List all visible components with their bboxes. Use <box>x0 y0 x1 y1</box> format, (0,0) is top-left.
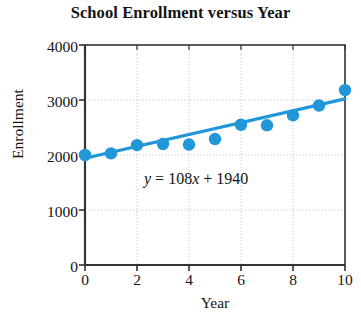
x-tick-label-6: 6 <box>221 272 261 288</box>
x-tick-label-0: 0 <box>65 272 105 288</box>
chart-figure: School Enrollment versus Year Enrollment… <box>0 0 361 323</box>
equation-operator: = 108 <box>151 170 192 187</box>
x-tick-label-2: 2 <box>117 272 157 288</box>
x-tick-label-8: 8 <box>273 272 313 288</box>
x-tick-label-10: 10 <box>325 272 361 288</box>
trendline-equation-annotation: y = 108x + 1940 <box>144 170 248 188</box>
equation-intercept: + 1940 <box>199 170 248 187</box>
x-axis-tick-labels: 0 2 4 6 8 10 <box>0 0 361 323</box>
x-tick-label-4: 4 <box>169 272 209 288</box>
